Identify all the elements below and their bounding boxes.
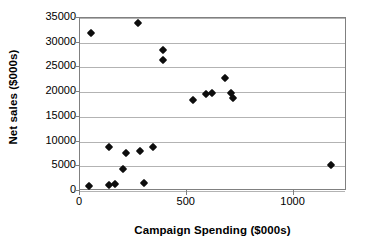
data-point xyxy=(221,74,229,82)
gridline xyxy=(80,191,345,192)
y-tick-label: 10000 xyxy=(30,135,76,146)
data-point xyxy=(148,142,156,150)
y-tick-label: 20000 xyxy=(30,85,76,96)
data-point xyxy=(84,182,92,190)
x-tick-label: 500 xyxy=(162,196,210,207)
y-tick-label: 15000 xyxy=(30,110,76,121)
data-point xyxy=(189,96,197,104)
x-tick-mark xyxy=(186,190,187,195)
data-point xyxy=(327,161,335,169)
y-tick-label: 25000 xyxy=(30,60,76,71)
data-point xyxy=(105,143,113,151)
gridline xyxy=(80,142,345,143)
data-point xyxy=(111,180,119,188)
data-point xyxy=(136,147,144,155)
x-tick-label: 0 xyxy=(55,196,103,207)
gridline xyxy=(80,117,345,118)
data-point xyxy=(86,29,94,37)
scatter-chart: Net sales ($000s) 0500010000150002000025… xyxy=(0,0,367,250)
gridline xyxy=(80,67,345,68)
plot-area xyxy=(79,17,346,190)
x-tick-mark xyxy=(79,190,80,195)
data-point xyxy=(122,149,130,157)
data-point xyxy=(159,46,167,54)
y-tick-label: 30000 xyxy=(30,36,76,47)
y-tick-label: 0 xyxy=(30,184,76,195)
y-axis-title: Net sales ($000s) xyxy=(4,2,22,192)
data-point xyxy=(133,19,141,27)
x-axis-title: Campaign Spending ($000s) xyxy=(79,224,346,236)
x-tick-mark xyxy=(293,190,294,195)
x-tick-label: 1000 xyxy=(269,196,317,207)
gridline xyxy=(80,43,345,44)
y-tick-label: 35000 xyxy=(30,11,76,22)
y-tick-label: 5000 xyxy=(30,159,76,170)
data-point xyxy=(159,56,167,64)
data-point xyxy=(208,89,216,97)
data-point xyxy=(228,94,236,102)
data-point xyxy=(140,179,148,187)
gridline xyxy=(80,18,345,19)
